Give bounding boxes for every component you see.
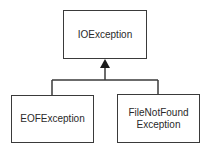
class-label-filenotfoundexception: FileNotFound Exception: [128, 107, 188, 131]
class-label-ioexception: IOException: [78, 29, 132, 41]
inheritance-arrowhead-icon: [100, 59, 110, 68]
class-label-eofexception: EOFException: [20, 113, 84, 125]
class-box-eofexception: EOFException: [11, 95, 94, 143]
class-box-filenotfoundexception: FileNotFound Exception: [117, 94, 200, 143]
class-box-ioexception: IOException: [63, 10, 147, 59]
